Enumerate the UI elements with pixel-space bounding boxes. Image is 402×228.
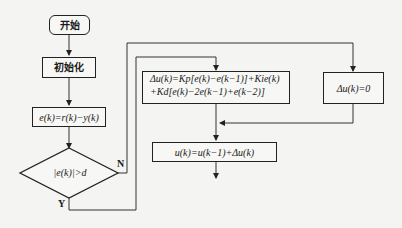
output-node: u(k)=u(k−1)+Δu(k) [152, 142, 277, 162]
pid-line2: +Kd[e(k)−2e(k−1)+e(k−2)] [150, 85, 265, 98]
pid-node: Δu(k)=Kp[e(k)−e(k−1)]+Kie(k) +Kd[e(k)−2e… [142, 71, 290, 104]
decision-label: |e(k)|>d [50, 167, 90, 178]
error-node: e(k)=r(k)−y(k) [32, 107, 106, 127]
init-label: 初始化 [54, 61, 84, 74]
error-label: e(k)=r(k)−y(k) [39, 111, 99, 124]
pid-line1: Δu(k)=Kp[e(k)−e(k−1)]+Kie(k) [150, 72, 279, 85]
start-label: 开始 [60, 19, 80, 32]
branch-yes-label: Y [58, 198, 65, 209]
branch-no-label: N [117, 158, 124, 169]
init-node: 初始化 [42, 57, 96, 78]
output-label: u(k)=u(k−1)+Δu(k) [175, 146, 254, 159]
zero-label: Δu(k)=0 [337, 82, 371, 95]
pid-flowchart: 开始 初始化 e(k)=r(k)−y(k) |e(k)|>d N Y Δu(k)… [0, 0, 402, 228]
zero-node: Δu(k)=0 [323, 72, 384, 104]
start-node: 开始 [49, 15, 90, 35]
